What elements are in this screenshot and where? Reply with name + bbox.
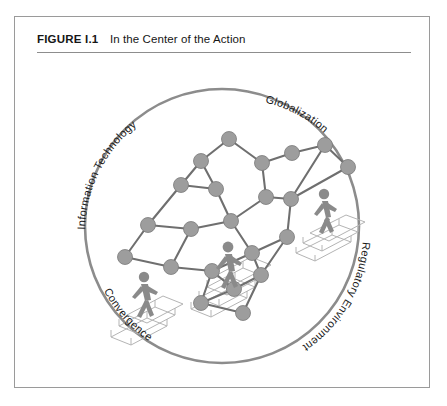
network-node <box>280 230 295 245</box>
label-regulatory-environment: Regulatory Environment <box>301 241 373 354</box>
network-node <box>209 182 224 197</box>
network-node <box>224 214 239 229</box>
label-information-technology-text: Information Technology <box>75 118 138 230</box>
label-information-technology: Information Technology <box>75 118 138 230</box>
network-node <box>245 246 260 261</box>
network-node <box>205 264 220 279</box>
network-node <box>164 260 179 275</box>
staircase-upper-right <box>296 215 365 261</box>
network-node <box>341 160 356 175</box>
network-node <box>222 132 237 147</box>
network-node <box>236 306 251 321</box>
figure-frame: FIGURE I.1 In the Center of the Action <box>14 16 430 388</box>
diagram-area: Information Technology Globalization Reg… <box>15 57 429 387</box>
figure-caption-title: In the Center of the Action <box>110 33 246 45</box>
network-node <box>318 138 333 153</box>
network-node <box>254 268 269 283</box>
network-node <box>284 192 299 207</box>
label-globalization-text: Globalization <box>265 93 331 135</box>
figure-caption: FIGURE I.1 In the Center of the Action <box>37 29 411 49</box>
network-node <box>259 190 274 205</box>
network-diagram: Information Technology Globalization Reg… <box>15 57 429 387</box>
network-node <box>118 250 133 265</box>
network-node <box>255 156 270 171</box>
label-globalization: Globalization <box>265 93 331 135</box>
caption-divider <box>37 52 411 53</box>
network-node <box>141 218 156 233</box>
network-node <box>174 178 189 193</box>
figure-caption-label: FIGURE I.1 <box>37 33 98 45</box>
label-regulatory-environment-text: Regulatory Environment <box>301 241 373 354</box>
network-node <box>194 296 209 311</box>
figure-root: FIGURE I.1 In the Center of the Action <box>0 0 447 406</box>
network-node <box>194 154 209 169</box>
walking-figure-lower-left <box>132 272 158 318</box>
network-node <box>184 222 199 237</box>
network-node <box>285 146 300 161</box>
